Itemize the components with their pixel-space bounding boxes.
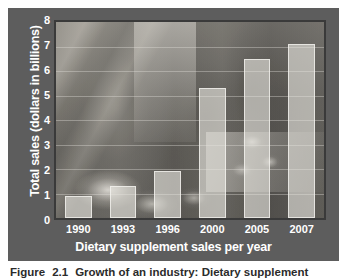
gridline-4 <box>56 120 324 121</box>
x-axis-tick-2000: 2000 <box>190 222 235 236</box>
gridline-2 <box>56 169 324 170</box>
x-axis-tick-1990: 1990 <box>56 222 101 236</box>
y-axis-tick-5: 5 <box>34 90 50 101</box>
y-axis-tick-7: 7 <box>34 40 50 51</box>
figure-caption: Figure2.1Growth of an industry: Dietary … <box>10 266 340 279</box>
x-axis-tick-2005: 2005 <box>235 222 280 236</box>
background-photo-highlight <box>134 22 196 142</box>
y-axis-tick-labels: 012345678 <box>34 20 50 220</box>
gridline-7 <box>56 47 324 48</box>
gridline-6 <box>56 71 324 72</box>
chart-panel: Total sales (dollars in billions) 012345… <box>8 8 339 261</box>
caption-text: Growth of an industry: Dietary supplemen… <box>75 266 308 278</box>
x-axis-tick-1996: 1996 <box>145 222 190 236</box>
figure-container: Total sales (dollars in billions) 012345… <box>0 0 347 279</box>
x-axis-tick-labels: 199019931996200020052007 <box>54 222 326 238</box>
bar-2005 <box>244 59 271 218</box>
bar-2000 <box>199 88 226 218</box>
plot-area <box>54 20 326 220</box>
gridline-3 <box>56 145 324 146</box>
caption-number: 2.1 <box>52 266 68 278</box>
y-axis-tick-1: 1 <box>34 190 50 201</box>
x-axis-tick-2007: 2007 <box>279 222 324 236</box>
y-axis-tick-2: 2 <box>34 165 50 176</box>
x-axis-tick-1993: 1993 <box>101 222 146 236</box>
gridline-1 <box>56 194 324 195</box>
y-axis-tick-3: 3 <box>34 140 50 151</box>
bar-2007 <box>288 44 315 218</box>
x-axis-title: Dietary supplement sales per year <box>8 240 339 254</box>
bar-1993 <box>110 186 137 218</box>
bar-1990 <box>65 196 92 218</box>
bar-1996 <box>154 171 181 218</box>
gridline-5 <box>56 96 324 97</box>
caption-label: Figure <box>10 266 45 278</box>
y-axis-tick-8: 8 <box>34 15 50 26</box>
y-axis-tick-6: 6 <box>34 65 50 76</box>
y-axis-tick-0: 0 <box>34 215 50 226</box>
y-axis-tick-4: 4 <box>34 115 50 126</box>
